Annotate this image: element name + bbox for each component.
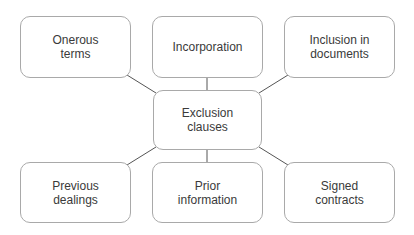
- node-prior-information: Prior information: [152, 162, 263, 223]
- node-label: Previous dealings: [52, 179, 99, 207]
- node-label: Incorporation: [172, 40, 242, 54]
- node-label: Signed contracts: [315, 179, 364, 207]
- node-label: Inclusion in documents: [309, 33, 369, 61]
- node-onerous-terms: Onerous terms: [20, 16, 131, 78]
- node-incorporation: Incorporation: [152, 16, 263, 78]
- node-exclusion-clauses-center: Exclusion clauses: [153, 90, 262, 150]
- edge-inclusion-in-documents: [259, 75, 288, 93]
- node-label: Prior information: [178, 179, 237, 207]
- edge-signed-contracts: [259, 147, 288, 165]
- node-signed-contracts: Signed contracts: [284, 162, 395, 223]
- node-label: Onerous terms: [52, 33, 98, 61]
- edge-previous-dealings: [127, 147, 156, 165]
- node-previous-dealings: Previous dealings: [20, 162, 131, 223]
- center-label: Exclusion clauses: [160, 106, 255, 134]
- node-inclusion-in-documents: Inclusion in documents: [284, 16, 395, 78]
- edge-onerous-terms: [127, 75, 156, 93]
